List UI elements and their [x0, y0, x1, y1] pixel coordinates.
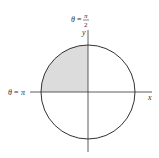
svg-text:π: π [84, 12, 88, 20]
theta-pi-over-2-label: θ = π 2 [71, 12, 89, 29]
svg-text:2: 2 [84, 21, 88, 29]
polar-diagram: x y θ = π 2 θ = π [0, 0, 159, 158]
theta-pi-label: θ = π [8, 88, 26, 97]
svg-text:θ: θ [8, 88, 12, 97]
shaded-quadrant [41, 45, 88, 92]
svg-text:=: = [14, 88, 19, 97]
y-axis-label: y [81, 28, 86, 37]
svg-text:π: π [21, 88, 26, 97]
svg-text:=: = [77, 15, 82, 24]
x-axis-label: x [147, 93, 152, 102]
svg-text:θ: θ [71, 15, 75, 24]
